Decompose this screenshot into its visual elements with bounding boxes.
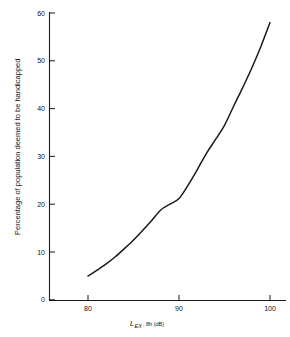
x-tick-label-80: 80 (84, 305, 92, 312)
chart-figure: 60 50 40 30 20 10 0 80 90 100 L EX , 8h … (0, 0, 290, 337)
y-tick-label-50: 50 (37, 57, 45, 64)
x-tick-label-100: 100 (264, 305, 276, 312)
x-axis-title-rest: , 8h (dB) (143, 321, 164, 327)
y-axis-title: Percentage of population deemed to be ha… (13, 59, 22, 235)
y-tick-label-40: 40 (37, 105, 45, 112)
x-axis-title-subscript: EX (135, 323, 143, 329)
x-tick-label-90: 90 (175, 305, 183, 312)
x-axis-title: L EX , 8h (dB) (130, 319, 164, 329)
y-tick-marks (50, 13, 56, 300)
y-tick-label-20: 20 (37, 201, 45, 208)
x-tick-marks (88, 295, 270, 301)
y-tick-label-60: 60 (37, 10, 45, 17)
y-tick-labels: 60 50 40 30 20 10 0 (37, 10, 45, 304)
x-tick-labels: 80 90 100 (84, 305, 276, 312)
y-tick-label-30: 30 (37, 153, 45, 160)
y-tick-label-10: 10 (37, 249, 45, 256)
chart-plot-area: 60 50 40 30 20 10 0 80 90 100 L EX , 8h … (0, 0, 290, 337)
y-tick-label-0: 0 (41, 296, 45, 303)
data-curve-percentage-handicapped (88, 23, 270, 276)
